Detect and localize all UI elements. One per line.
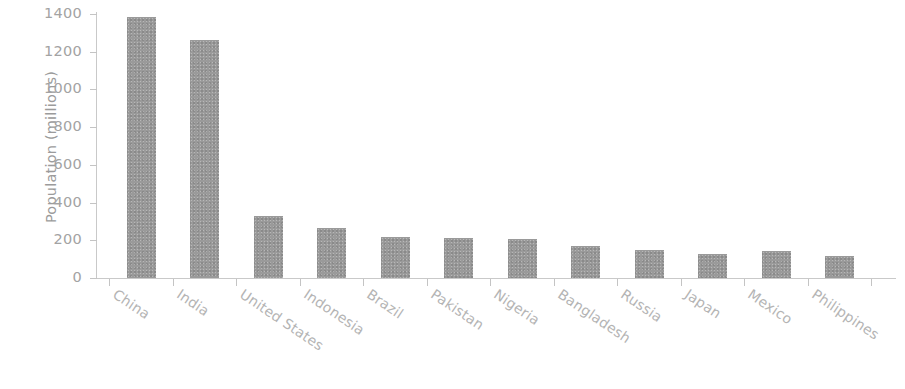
y-axis-tick (90, 278, 97, 279)
x-axis-tick-label: Mexico (745, 286, 795, 327)
x-axis-tick-label: Philippines (809, 286, 882, 343)
y-axis-tick-label: 1200 (34, 43, 82, 59)
y-axis-tick (90, 240, 97, 241)
bar (825, 256, 854, 278)
y-axis-tick (90, 52, 97, 53)
y-axis-tick (90, 203, 97, 204)
y-axis-tick-label: 600 (34, 156, 82, 172)
x-axis-tick (173, 279, 174, 286)
x-axis-tick-label: China (110, 286, 153, 322)
bar (381, 237, 410, 278)
x-axis-tick (236, 279, 237, 286)
x-axis-tick-label: India (174, 286, 212, 319)
x-axis-tick-label: Nigeria (491, 286, 543, 328)
bar (254, 216, 283, 278)
x-axis-tick-label: Pakistan (428, 286, 487, 333)
bar (127, 17, 156, 278)
bar (635, 250, 664, 278)
y-axis-tick-label: 0 (34, 269, 82, 285)
x-axis-tick (681, 279, 682, 286)
y-axis-tick (90, 14, 97, 15)
x-axis-tick (617, 279, 618, 286)
x-axis-tick (109, 279, 110, 286)
y-axis-tick (90, 165, 97, 166)
x-axis-spine (96, 278, 896, 279)
bar-chart-figure: Population (millions) 020040060080010001… (0, 0, 905, 389)
y-axis-tick-label: 1400 (34, 5, 82, 21)
y-axis-tick (90, 89, 97, 90)
bar (508, 239, 537, 278)
x-axis-tick (490, 279, 491, 286)
bar (698, 254, 727, 278)
bar (444, 238, 473, 278)
x-axis-tick (363, 279, 364, 286)
x-axis-tick (808, 279, 809, 286)
y-axis-tick-label: 1000 (34, 80, 82, 96)
x-axis-tick (427, 279, 428, 286)
x-axis-tick-label: Japan (682, 286, 724, 322)
y-axis-tick-label: 400 (34, 194, 82, 210)
x-axis-tick (300, 279, 301, 286)
bar (190, 40, 219, 278)
x-axis-tick-label: Russia (618, 286, 665, 325)
bar (317, 228, 346, 278)
x-axis-tick-label: Brazil (364, 286, 406, 322)
x-axis-tick (871, 279, 872, 286)
y-axis-tick-label: 200 (34, 231, 82, 247)
bar (571, 246, 600, 278)
bar (762, 251, 791, 278)
y-axis-tick-label: 800 (34, 118, 82, 134)
y-axis-tick (90, 127, 97, 128)
x-axis-tick (554, 279, 555, 286)
x-axis-tick (744, 279, 745, 286)
